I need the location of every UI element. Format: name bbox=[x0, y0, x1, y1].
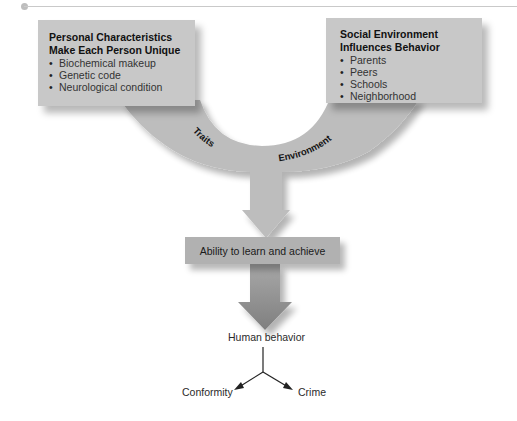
social-environment-list: Parents Peers Schools Neighborhood bbox=[340, 54, 416, 102]
list-item: Biochemical makeup bbox=[49, 57, 162, 69]
arrowhead-conformity-icon bbox=[234, 382, 244, 390]
social-environment-box: Social Environment Influences Behavior P… bbox=[326, 18, 482, 103]
crime-label: Crime bbox=[298, 386, 326, 398]
branch-lines bbox=[239, 347, 288, 387]
conformity-label: Conformity bbox=[182, 386, 233, 398]
list-item: Peers bbox=[340, 66, 416, 78]
down-arrow-to-behavior bbox=[238, 264, 292, 330]
list-item: Neighborhood bbox=[340, 90, 416, 102]
personal-characteristics-list: Biochemical makeup Genetic code Neurolog… bbox=[49, 57, 162, 93]
list-item: Parents bbox=[340, 54, 416, 66]
arrowhead-crime-icon bbox=[283, 382, 293, 390]
u-funnel-shape bbox=[120, 98, 420, 238]
ability-box: Ability to learn and achieve bbox=[185, 237, 340, 264]
list-item: Genetic code bbox=[49, 69, 162, 81]
personal-characteristics-box: Personal Characteristics Make Each Perso… bbox=[38, 20, 195, 106]
human-behavior-label: Human behavior bbox=[228, 331, 305, 343]
list-item: Schools bbox=[340, 78, 416, 90]
personal-characteristics-title: Personal Characteristics Make Each Perso… bbox=[49, 31, 180, 56]
list-item: Neurological condition bbox=[49, 81, 162, 93]
social-environment-title: Social Environment Influences Behavior bbox=[340, 28, 440, 53]
ability-label: Ability to learn and achieve bbox=[200, 245, 326, 257]
